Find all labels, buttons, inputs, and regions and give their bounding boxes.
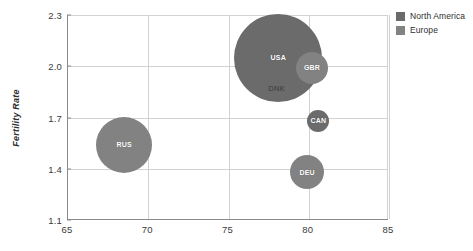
x-tick-label: 75 [222, 224, 233, 235]
bubble-label-gbr: GBR [304, 64, 320, 71]
y-tick-label: 2.3 [16, 10, 62, 21]
bubble-can[interactable]: CAN [307, 110, 329, 132]
gridline-vertical [389, 15, 390, 219]
x-tick-label: 70 [142, 224, 153, 235]
bubble-label-can: CAN [310, 117, 326, 124]
bubble-label-deu: DEU [299, 169, 314, 176]
legend-label-north-america: North America [410, 11, 465, 21]
y-tick-mark [67, 117, 71, 118]
gridline-horizontal [68, 66, 388, 67]
plot-area: USACANGBRDEURUSDNK [67, 15, 388, 220]
bubble-label-usa: USA [271, 54, 286, 61]
y-tick-mark [67, 66, 71, 67]
y-tick-label: 1.7 [16, 112, 62, 123]
legend: North America Europe [396, 11, 465, 35]
y-tick-label: 2.0 [16, 61, 62, 72]
legend-swatch-north-america [396, 12, 405, 21]
bubble-chart: Fertility Rate 2.32.01.71.41.1 657075808… [0, 0, 473, 251]
x-tick-label: 65 [62, 224, 73, 235]
x-tick-label: 85 [383, 224, 394, 235]
y-tick-label: 1.1 [16, 215, 62, 226]
bubble-label-rus: RUS [116, 141, 131, 148]
bubble-gbr[interactable]: GBR [296, 52, 328, 84]
y-tick-label: 1.4 [16, 163, 62, 174]
y-tick-mark [67, 15, 71, 16]
legend-swatch-europe [396, 26, 405, 35]
bubble-deu[interactable]: DEU [290, 155, 324, 189]
legend-item-north-america[interactable]: North America [396, 11, 465, 21]
y-tick-mark [67, 168, 71, 169]
y-axis-ticks: 2.32.01.71.41.1 [0, 0, 62, 251]
legend-item-europe[interactable]: Europe [396, 25, 465, 35]
point-label-dnk: DNK [268, 84, 285, 93]
legend-label-europe: Europe [410, 25, 438, 35]
x-tick-label: 80 [302, 224, 313, 235]
y-tick-mark [67, 220, 71, 221]
bubble-rus[interactable]: RUS [96, 117, 152, 173]
